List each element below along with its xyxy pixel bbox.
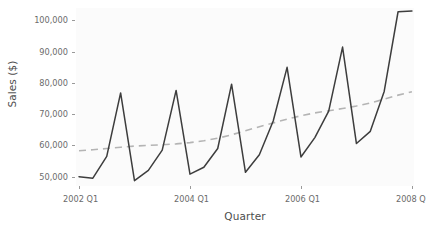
y-tick-mark <box>72 114 75 115</box>
x-tick-mark <box>301 186 302 189</box>
y-tick-label: 80,000 <box>39 79 68 87</box>
y-tick-mark <box>72 145 75 146</box>
x-tick-label: 2008 Q <box>396 195 426 203</box>
plot-panel <box>76 8 414 186</box>
x-tick-mark <box>79 186 80 189</box>
x-axis-title: Quarter <box>76 210 414 222</box>
y-tick-label: 60,000 <box>39 141 68 149</box>
y-tick-label: 50,000 <box>39 173 68 181</box>
y-tick-label: 90,000 <box>39 48 68 56</box>
x-tick-label: 2004 Q1 <box>174 195 209 203</box>
y-tick-label: 100,000 <box>34 16 68 24</box>
y-tick-label: 70,000 <box>39 110 68 118</box>
y-tick-mark <box>72 52 75 53</box>
x-tick-mark <box>412 186 413 189</box>
y-tick-mark <box>72 83 75 84</box>
plot-lines <box>76 8 414 186</box>
x-tick-label: 2002 Q1 <box>63 195 98 203</box>
y-axis-ticks: 50,00060,00070,00080,00090,000100,000 <box>0 0 68 230</box>
y-tick-mark <box>72 177 75 178</box>
sales-line <box>79 11 412 181</box>
y-tick-mark <box>72 20 75 21</box>
x-tick-label: 2006 Q1 <box>285 195 320 203</box>
x-tick-mark <box>190 186 191 189</box>
